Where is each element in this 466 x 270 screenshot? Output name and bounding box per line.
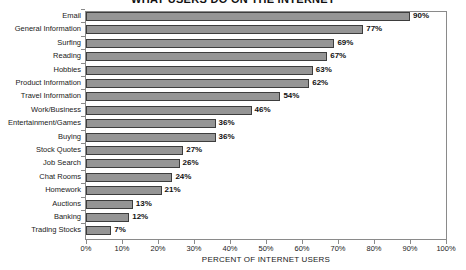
bar-row: 36% [86,119,446,128]
category-label: Auctions [0,200,81,208]
bar-row: 24% [86,173,446,182]
value-tick-label: 100% [436,244,455,253]
category-label: Entertainment/Games [0,119,81,127]
bar-row: 36% [86,133,446,142]
bar-value-label: 77% [366,24,382,34]
value-tick-label: 10% [114,244,129,253]
bar-value-label: 67% [330,51,346,61]
bar [86,200,133,209]
bar-value-label: 27% [186,145,202,155]
bar-value-label: 62% [312,78,328,88]
bar [86,226,111,235]
bar-value-label: 46% [255,105,271,115]
bar-row: 62% [86,79,446,88]
bar-value-label: 21% [165,185,181,195]
category-label: Job Search [0,159,81,167]
value-tick-label: 70% [330,244,345,253]
value-tick-label: 40% [222,244,237,253]
bar-row: 27% [86,146,446,155]
bar-row: 46% [86,106,446,115]
bar-row: 12% [86,213,446,222]
bar-value-label: 26% [183,158,199,168]
bar [86,119,216,128]
bar-row: 90% [86,12,446,21]
bar [86,92,280,101]
bar-row: 26% [86,159,446,168]
bar [86,159,180,168]
value-tick-label: 60% [294,244,309,253]
bar-row: 21% [86,186,446,195]
category-label: Travel Information [0,92,81,100]
bar [86,173,172,182]
bar-series: 90%77%69%67%63%62%54%46%36%36%27%26%24%2… [86,12,446,239]
bar-row: 54% [86,92,446,101]
bar [86,79,309,88]
category-label: Product Information [0,79,81,87]
bar-value-label: 12% [132,212,148,222]
category-label: Stock Quotes [0,146,81,154]
bar-row: 69% [86,39,446,48]
bar-value-label: 63% [316,65,332,75]
category-label: Chat Rooms [0,173,81,181]
category-axis: EmailGeneral InformationSurfingReadingHo… [0,11,81,240]
x-axis-title: PERCENT OF INTERNET USERS [85,255,447,264]
bar [86,213,129,222]
category-label: Hobbies [0,66,81,74]
category-label: Trading Stocks [0,226,81,234]
category-label: Surfing [0,39,81,47]
bar [86,12,410,21]
bar-value-label: 90% [413,11,429,21]
bar-row: 63% [86,66,446,75]
bar-value-label: 54% [283,91,299,101]
bar [86,25,363,34]
category-label: Work/Business [0,106,81,114]
bar-row: 77% [86,25,446,34]
category-label: General Information [0,25,81,33]
bar [86,146,183,155]
bar-row: 7% [86,226,446,235]
bar-chart: WHAT USERS DO ON THE INTERNET EmailGener… [0,0,466,270]
bar-row: 13% [86,200,446,209]
bar-value-label: 69% [337,38,353,48]
bar-value-label: 13% [136,199,152,209]
bar [86,66,313,75]
bar-value-label: 7% [114,225,126,235]
category-tick [81,9,85,10]
bar [86,133,216,142]
bar [86,186,162,195]
value-tick-label: 20% [150,244,165,253]
bar-value-label: 36% [219,118,235,128]
value-tick-label: 50% [258,244,273,253]
value-tick-label: 30% [186,244,201,253]
bar [86,106,252,115]
bar [86,39,334,48]
category-label: Homework [0,186,81,194]
bar [86,52,327,61]
chart-title: WHAT USERS DO ON THE INTERNET [0,0,466,5]
bar-row: 67% [86,52,446,61]
category-label: Reading [0,52,81,60]
value-tick-label: 90% [402,244,417,253]
category-label: Buying [0,133,81,141]
bar-value-label: 24% [175,172,191,182]
value-tick-label: 0% [81,244,92,253]
category-label: Banking [0,213,81,221]
category-label: Email [0,12,81,20]
value-tick-label: 80% [366,244,381,253]
bar-value-label: 36% [219,132,235,142]
